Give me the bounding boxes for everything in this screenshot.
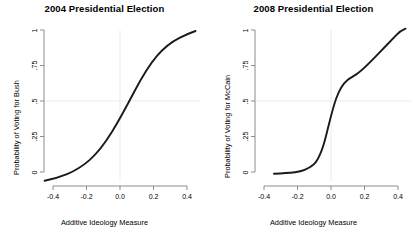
- x-tick-label-n02: -0.2: [72, 193, 102, 200]
- y-tick-label-1: 1: [242, 20, 249, 40]
- x-tick-label-02: 0.2: [139, 193, 169, 200]
- y-axis-title-2008: Probability of Voting for McCain: [223, 75, 232, 178]
- x-tick-label-n02: -0.2: [283, 193, 313, 200]
- y-tick-label-0: 0: [242, 162, 249, 182]
- y-tick-label-1: 1: [31, 20, 38, 40]
- x-tick-label-02: 0.2: [350, 193, 380, 200]
- x-tick-label-04: 0.4: [172, 193, 202, 200]
- x-axis-title-2008: Additive Ideology Measure: [209, 218, 418, 227]
- y-tick-label-075: .75: [242, 54, 249, 78]
- y-tick-label-05: .5: [31, 91, 38, 111]
- x-tick-label-n04: -0.4: [38, 193, 68, 200]
- y-tick-label-075: .75: [31, 54, 38, 78]
- x-tick-label-00: 0.0: [105, 193, 135, 200]
- y-axis-title-2004: Probability of Voting for Bush: [12, 80, 21, 175]
- x-tick-label-04: 0.4: [383, 193, 413, 200]
- y-tick-label-025: .25: [31, 125, 38, 149]
- x-axis-title-2004: Additive Ideology Measure: [0, 218, 209, 227]
- panel-2004: 2004 Presidential Election 0 .25 .5: [0, 0, 209, 233]
- y-tick-label-05: .5: [242, 91, 249, 111]
- y-tick-label-0: 0: [31, 162, 38, 182]
- figure-root: 2004 Presidential Election 0 .25 .5: [0, 0, 418, 233]
- x-tick-label-n04: -0.4: [249, 193, 279, 200]
- x-tick-label-00: 0.0: [316, 193, 346, 200]
- panel-2008: 2008 Presidential Election 0 .25 .5 .75 …: [209, 0, 418, 233]
- y-tick-label-025: .25: [242, 125, 249, 149]
